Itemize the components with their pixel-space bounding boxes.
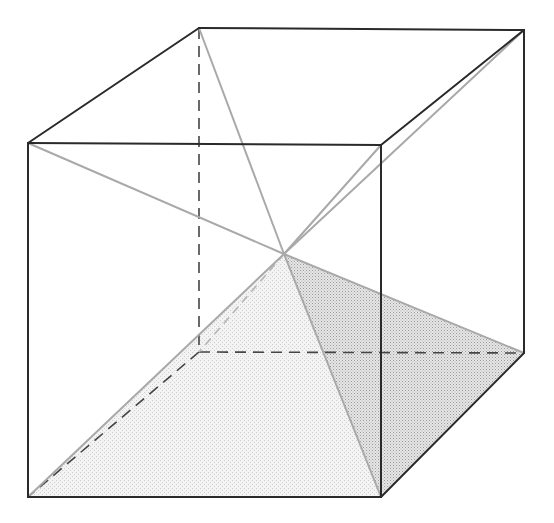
diagonal-center-to-front-top-left [28, 143, 284, 254]
diagonal-center-to-back-top-left [199, 28, 284, 254]
shaded-faces [28, 254, 524, 497]
edge-front-top-left-to-front-top-right [28, 143, 381, 145]
diagonal-center-to-back-top-right [284, 30, 524, 254]
cube-diagram [0, 0, 554, 523]
edge-back-top-left-to-back-top-right [199, 28, 524, 30]
edge-back-top-right-to-front-top-right [381, 30, 524, 145]
diagonal-center-to-front-top-right [284, 145, 381, 254]
edge-front-top-left-to-back-top-left [28, 28, 199, 143]
